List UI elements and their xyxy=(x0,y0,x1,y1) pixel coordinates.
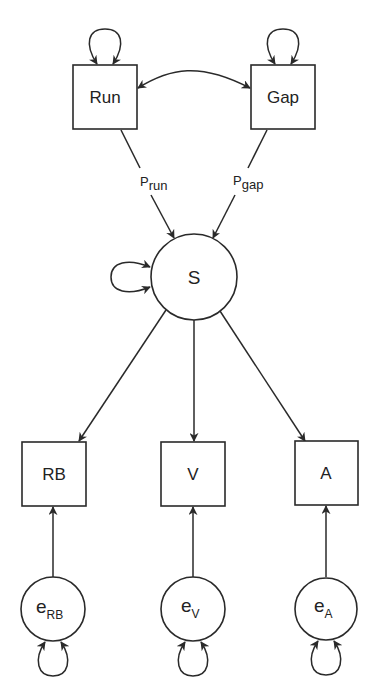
v-label: V xyxy=(187,465,199,484)
run-to-s-path-upper xyxy=(121,130,140,168)
rb-label: RB xyxy=(42,465,66,484)
s-to-rb-path xyxy=(79,310,166,441)
run-to-s-path-lower xyxy=(151,195,174,238)
run-variance-loop xyxy=(89,29,120,64)
gap-variance-loop xyxy=(267,29,298,64)
e-v-variance-loop xyxy=(178,642,207,676)
p-run-label: Prun xyxy=(140,174,167,193)
a-label: A xyxy=(320,464,332,483)
s-label: S xyxy=(188,267,201,288)
p-gap-label: Pgap xyxy=(233,173,263,192)
gap-to-s-path-upper xyxy=(248,130,267,168)
run-label: Run xyxy=(89,88,120,107)
s-variance-loop xyxy=(111,262,150,292)
e-a-variance-loop xyxy=(311,641,340,675)
e-rb-variance-loop xyxy=(38,642,67,676)
s-to-a-path xyxy=(220,311,305,441)
gap-to-s-path-lower xyxy=(213,195,235,238)
run-gap-covariance-arrow xyxy=(138,71,250,88)
path-diagram: Run Gap Prun Pgap S RB V A eRB eV xyxy=(0,0,379,696)
gap-label: Gap xyxy=(267,88,299,107)
